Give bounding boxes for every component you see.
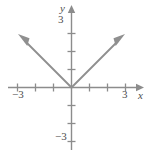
curve-left-arrowhead-icon [18,34,30,46]
y-axis-arrowhead-icon [68,5,75,13]
curve-right-arrowhead-icon [114,34,126,46]
curve-left-branch [25,41,72,88]
coordinate-plane-plot [0,0,149,157]
x-axis-label: x [138,90,143,101]
y-tick-label-three: 3 [58,14,64,25]
y-tick-label-negative-three: −3 [55,131,67,142]
x-tick-label-negative-three: −3 [12,89,24,100]
graph-figure: y x −3 3 3 −3 [0,0,149,157]
curve-right-branch [72,41,119,88]
x-tick-label-three: 3 [122,89,128,100]
